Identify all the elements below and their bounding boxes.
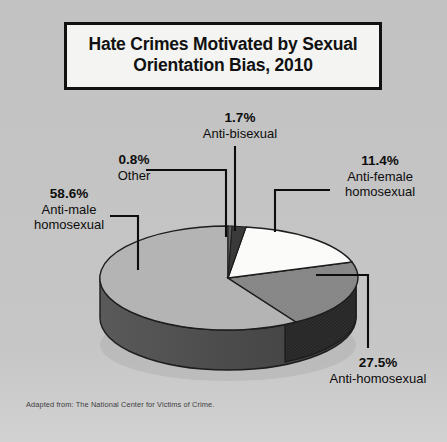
label-anti-female-homosexual-name-1: Anti-female — [318, 169, 442, 184]
label-anti-female-homosexual-name-2: homosexual — [318, 184, 442, 199]
label-anti-male-homosexual-name-1: Anti-male — [6, 202, 132, 217]
label-anti-male-homosexual: 58.6% Anti-male homosexual — [6, 186, 132, 233]
label-other: 0.8% Other — [92, 152, 176, 183]
label-other-pct: 0.8% — [92, 152, 176, 168]
label-other-name: Other — [92, 168, 176, 183]
chart-title-line-1: Hate Crimes Motivated by Sexual — [73, 34, 373, 55]
source-note: Adapted from: The National Center for Vi… — [26, 400, 214, 409]
label-anti-bisexual-pct: 1.7% — [176, 110, 304, 126]
label-anti-bisexual-name: Anti-bisexual — [176, 126, 304, 141]
label-anti-homosexual-pct: 27.5% — [310, 355, 446, 371]
label-anti-female-homosexual-pct: 11.4% — [318, 153, 442, 169]
label-anti-male-homosexual-pct: 58.6% — [6, 186, 132, 202]
chart-title-line-2: Orientation Bias, 2010 — [73, 55, 373, 76]
chart-canvas: Hate Crimes Motivated by Sexual Orientat… — [0, 0, 447, 442]
chart-title-box: Hate Crimes Motivated by Sexual Orientat… — [64, 22, 382, 90]
label-anti-male-homosexual-name-2: homosexual — [6, 217, 132, 232]
label-anti-bisexual: 1.7% Anti-bisexual — [176, 110, 304, 141]
label-anti-female-homosexual: 11.4% Anti-female homosexual — [318, 153, 442, 200]
label-anti-homosexual-name: Anti-homosexual — [310, 371, 446, 386]
label-anti-homosexual: 27.5% Anti-homosexual — [310, 355, 446, 386]
